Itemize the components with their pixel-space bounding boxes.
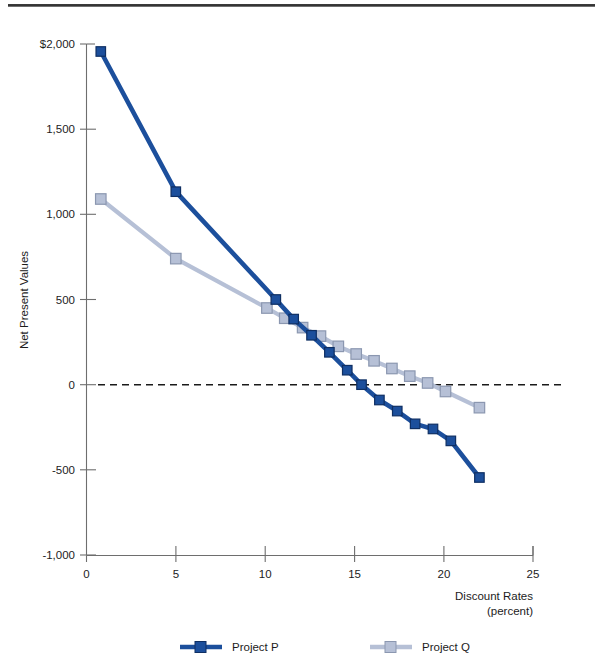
data-point-marker[interactable]	[375, 395, 385, 405]
axes-frame	[87, 44, 534, 556]
y-tick-group	[80, 44, 96, 555]
data-point-marker[interactable]	[474, 402, 485, 413]
series-project-q	[96, 194, 485, 413]
npv-crossover-chart-figure: $2,000 1,500 1,000 500 0 -500 -1,000 Net…	[0, 0, 603, 671]
x-tick-label-15: 15	[348, 568, 361, 580]
x-axis-title: Discount Rates	[455, 590, 533, 602]
data-point-marker[interactable]	[475, 473, 485, 483]
chart-canvas: $2,000 1,500 1,000 500 0 -500 -1,000 Net…	[0, 0, 603, 671]
data-point-marker[interactable]	[387, 363, 398, 374]
data-point-marker[interactable]	[271, 295, 281, 305]
legend-swatch-marker-p	[195, 642, 206, 653]
data-point-marker[interactable]	[289, 314, 299, 324]
data-point-marker[interactable]	[351, 349, 362, 360]
data-point-marker[interactable]	[428, 424, 438, 434]
legend-label-project-p: Project P	[232, 641, 279, 653]
series-line	[101, 199, 480, 408]
data-point-marker[interactable]	[422, 378, 433, 389]
x-tick-label-5: 5	[173, 568, 179, 580]
data-point-marker[interactable]	[343, 365, 353, 375]
data-point-marker[interactable]	[96, 194, 107, 205]
y-tick-label-0: 0	[69, 379, 75, 391]
x-tick-label-0: 0	[83, 568, 89, 580]
data-point-marker[interactable]	[405, 371, 416, 382]
x-axis-title-units: (percent)	[487, 605, 533, 617]
data-point-marker[interactable]	[440, 386, 451, 397]
legend-label-project-q: Project Q	[422, 641, 470, 653]
legend-entry-project-q[interactable]: Project Q	[370, 641, 470, 653]
data-point-marker[interactable]	[357, 380, 367, 390]
x-tick-group	[87, 546, 534, 562]
legend-entry-project-p[interactable]: Project P	[180, 641, 279, 653]
y-axis-title: Net Present Values	[18, 251, 30, 349]
y-tick-label-neg1000: -1,000	[42, 549, 75, 561]
data-point-marker[interactable]	[307, 331, 317, 341]
x-tick-labels: 0 5 10 15 20 25	[83, 568, 539, 580]
data-point-marker[interactable]	[369, 356, 380, 367]
data-point-marker[interactable]	[325, 348, 335, 358]
chart-legend: Project P Project Q	[180, 641, 470, 653]
data-point-marker[interactable]	[410, 419, 420, 429]
y-tick-labels: $2,000 1,500 1,000 500 0 -500 -1,000	[40, 38, 75, 561]
y-tick-label-500: 500	[56, 294, 75, 306]
x-tick-label-20: 20	[438, 568, 451, 580]
data-series-layer	[96, 47, 485, 483]
y-tick-label-neg500: -500	[52, 464, 75, 476]
data-point-marker[interactable]	[393, 406, 403, 416]
x-tick-label-25: 25	[527, 568, 540, 580]
series-line	[101, 51, 480, 477]
series-project-p	[96, 47, 484, 483]
legend-swatch-marker-q	[385, 642, 396, 653]
data-point-marker[interactable]	[171, 253, 182, 264]
data-point-marker[interactable]	[171, 187, 181, 197]
data-point-marker[interactable]	[446, 436, 456, 446]
y-tick-label-1500: 1,500	[46, 123, 75, 135]
data-point-marker[interactable]	[96, 47, 106, 57]
y-tick-label-2000: $2,000	[40, 38, 75, 50]
x-tick-label-10: 10	[259, 568, 272, 580]
y-tick-label-1000: 1,000	[46, 208, 75, 220]
